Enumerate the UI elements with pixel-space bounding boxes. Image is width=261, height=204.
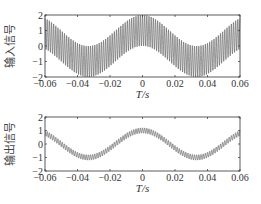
signal-line <box>45 15 240 77</box>
x-tick-label: −0.04 <box>66 172 89 183</box>
x-tick-label: 0.06 <box>231 78 249 89</box>
x-axis-label: T/s <box>136 182 149 194</box>
y-tick-label: −1 <box>32 56 43 67</box>
chart-figure: −0.06−0.04−0.0200.020.040.06210−1−2T/s输入… <box>0 0 261 204</box>
y-tick-label: 2 <box>38 112 43 123</box>
x-tick-label: −0.02 <box>98 172 121 183</box>
plot-input: −0.06−0.04−0.0200.020.040.06210−1−2T/s输入… <box>3 10 249 101</box>
x-tick-label: −0.04 <box>66 78 89 89</box>
y-axis-label: 输出信号 <box>3 122 17 166</box>
x-tick-label: 0.02 <box>166 172 184 183</box>
x-tick-label: −0.02 <box>98 78 121 89</box>
y-tick-label: −2 <box>32 166 43 177</box>
x-tick-label: 0.04 <box>199 172 217 183</box>
x-tick-label: 0.06 <box>231 172 249 183</box>
y-tick-label: 0 <box>38 41 43 52</box>
x-axis-label: T/s <box>136 88 149 100</box>
y-axis-label: 输入信号 <box>3 24 17 68</box>
y-tick-label: 2 <box>38 10 43 21</box>
x-tick-label: 0.04 <box>199 78 217 89</box>
signal-line <box>45 128 240 160</box>
y-tick-label: 1 <box>38 125 43 136</box>
y-tick-label: 1 <box>38 25 43 36</box>
plot-output: −0.06−0.04−0.0200.020.040.06210−1−2T/s输出… <box>3 112 249 195</box>
x-tick-label: 0.02 <box>166 78 184 89</box>
y-tick-label: −2 <box>32 72 43 83</box>
axes-box <box>45 117 240 171</box>
y-tick-label: −1 <box>32 152 43 163</box>
y-tick-label: 0 <box>38 139 43 150</box>
